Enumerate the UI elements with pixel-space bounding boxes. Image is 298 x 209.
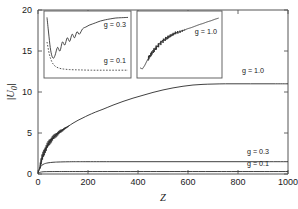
x-tick-label: 0 bbox=[35, 177, 40, 187]
inset-left-label-g-0-3: g = 0.3 bbox=[104, 20, 126, 29]
y-axis-tick-labels: 05101520 bbox=[22, 5, 32, 179]
curve-g-0-1 bbox=[38, 172, 288, 174]
y-tick-label: 15 bbox=[22, 46, 32, 56]
y-tick-label: 0 bbox=[27, 169, 32, 179]
svg-text:|U0|: |U0| bbox=[5, 83, 19, 100]
y-tick-label: 20 bbox=[22, 5, 32, 15]
inset-right-label-g-1-0: g = 1.0 bbox=[195, 27, 217, 36]
series-annotation: g = 0.3 bbox=[247, 147, 269, 156]
figure-panel: 05101520 02004006008001000 Z |U0| g = 1.… bbox=[0, 0, 298, 209]
inset-right: g = 1.0 bbox=[137, 11, 222, 78]
x-axis-tick-labels: 02004006008001000 bbox=[35, 177, 298, 187]
y-tick-label: 5 bbox=[27, 128, 32, 138]
series-annotation: g = 1.0 bbox=[242, 66, 264, 75]
x-tick-label: 600 bbox=[180, 177, 195, 187]
x-tick-label: 400 bbox=[130, 177, 145, 187]
plot-svg: 05101520 02004006008001000 Z |U0| g = 1.… bbox=[0, 0, 298, 209]
series-annotations: g = 1.0g = 0.3g = 0.1 bbox=[242, 66, 269, 168]
x-tick-label: 800 bbox=[230, 177, 245, 187]
x-tick-label: 200 bbox=[80, 177, 95, 187]
x-axis-title: Z bbox=[160, 192, 166, 203]
x-tick-label: 1000 bbox=[278, 177, 298, 187]
series-annotation: g = 0.1 bbox=[247, 159, 269, 168]
y-axis-title: |U0| bbox=[5, 83, 19, 100]
inset-left-label-g-0-1: g = 0.1 bbox=[104, 56, 126, 65]
y-axis-title-bar-close: | bbox=[5, 83, 16, 86]
inset-left: g = 0.3 g = 0.1 bbox=[44, 11, 131, 78]
y-tick-label: 10 bbox=[22, 87, 32, 97]
